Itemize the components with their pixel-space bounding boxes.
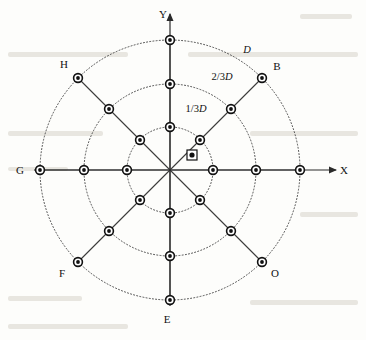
node-marker [74,74,83,83]
node-center-dot [211,168,215,172]
node-center-dot [76,260,80,264]
node-center-dot [229,229,233,233]
node-marker [258,74,267,83]
node-center-dot [229,107,233,111]
node-center-dot [168,211,172,215]
node-center-dot [82,168,86,172]
node-marker [227,105,236,114]
node-marker [252,166,261,175]
node-center-dot [76,76,80,80]
node-marker [136,196,145,205]
node-center-dot [38,168,42,172]
label-h: H [60,58,68,70]
node-center-dot [298,168,302,172]
ring-label-inner: 1/3D [185,103,206,114]
ring-label-outer: D [242,44,251,55]
node-center-dot [168,254,172,258]
spoke-sw [78,170,170,262]
spoke-ne [170,78,262,170]
node-marker [105,227,114,236]
node-marker [166,209,175,218]
node-center-dot [168,38,172,42]
diagram-canvas: X Y 1/3D2/3DD BOEFGH [0,0,366,340]
node-center-dot [168,125,172,129]
node-marker [296,166,305,175]
node-marker [258,258,267,267]
node-marker [166,80,175,89]
spoke-nw [78,78,170,170]
node-marker [166,296,175,305]
label-b: B [273,60,280,72]
node-marker [80,166,89,175]
node-marker [166,123,175,132]
label-e: E [164,313,171,325]
x-axis-label: X [340,164,348,176]
node-center-dot [260,76,264,80]
node-marker [136,136,145,145]
radial-node-diagram: X Y 1/3D2/3DD BOEFGH [0,0,366,340]
node-center-dot [198,198,202,202]
node-center-dot [168,298,172,302]
node-center-dot [107,229,111,233]
node-marker [227,227,236,236]
label-g: G [16,164,24,176]
node-marker [123,166,132,175]
node-center-dot [260,260,264,264]
node-marker [166,252,175,261]
ring-label-middle: 2/3D [211,71,232,82]
node-center-dot [125,168,129,172]
label-f: F [59,267,65,279]
node-center-dot [138,138,142,142]
node-center-dot [138,198,142,202]
node-marker [209,166,218,175]
node-marker [105,105,114,114]
node-center-dot [254,168,258,172]
node-center-dot [198,138,202,142]
center-marker [187,150,197,160]
label-o: O [271,267,279,279]
y-axis-label: Y [159,8,167,20]
node-marker [74,258,83,267]
spoke-se [170,170,262,262]
node-marker [36,166,45,175]
node-marker [196,136,205,145]
node-center-dot [168,82,172,86]
node-marker [196,196,205,205]
node-marker [166,36,175,45]
node-center-dot [107,107,111,111]
